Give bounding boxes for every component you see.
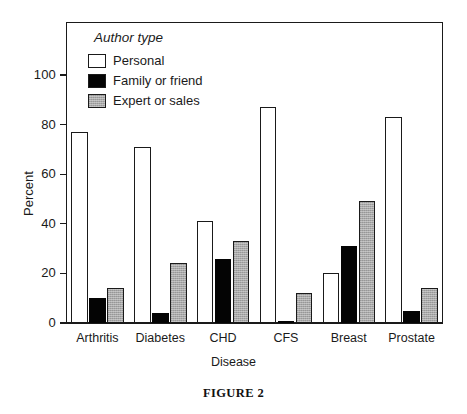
x-axis-label-arthritis: Arthritis	[66, 331, 129, 345]
bar-breast-personal	[323, 273, 340, 323]
bar-arthritis-family-or-friend	[89, 298, 106, 323]
figure-2-bar-chart: 020406080100 Percent ArthritisDiabetesCH…	[0, 0, 467, 414]
x-axis-label-prostate: Prostate	[380, 331, 443, 345]
legend: Author type PersonalFamily or friendExpe…	[88, 30, 258, 111]
x-axis-title: Disease	[0, 355, 467, 369]
bar-prostate-family-or-friend	[403, 311, 420, 323]
legend-item: Family or friend	[88, 71, 258, 90]
bar-prostate-expert-or-sales	[421, 288, 438, 323]
legend-item-label: Family or friend	[113, 74, 203, 88]
bar-cfs-personal	[260, 107, 277, 323]
bar-chd-personal	[197, 221, 214, 323]
x-axis-label-breast: Breast	[317, 331, 380, 345]
bar-diabetes-personal	[134, 147, 151, 323]
bar-diabetes-expert-or-sales	[170, 263, 187, 323]
bar-chd-family-or-friend	[215, 259, 232, 323]
bar-prostate-personal	[385, 117, 402, 323]
bar-breast-family-or-friend	[341, 246, 358, 323]
bar-cfs-expert-or-sales	[296, 293, 313, 323]
legend-item: Personal	[88, 51, 258, 70]
bar-breast-expert-or-sales	[359, 201, 376, 323]
legend-entries: PersonalFamily or friendExpert or sales	[88, 51, 258, 110]
bar-arthritis-personal	[71, 132, 88, 323]
x-axis-label-cfs: CFS	[255, 331, 318, 345]
bar-cfs-family-or-friend	[278, 321, 295, 323]
x-axis-label-chd: CHD	[192, 331, 255, 345]
legend-swatch-open-square-icon	[88, 54, 106, 68]
bar-arthritis-expert-or-sales	[107, 288, 124, 323]
legend-title: Author type	[88, 30, 258, 45]
legend-swatch-filled-black-square-icon	[88, 74, 106, 88]
bar-chd-expert-or-sales	[233, 241, 250, 323]
x-axis-label-diabetes: Diabetes	[129, 331, 192, 345]
legend-item: Expert or sales	[88, 91, 258, 110]
legend-item-label: Personal	[113, 54, 164, 68]
legend-swatch-gray-hatched-square-icon	[88, 94, 106, 108]
legend-item-label: Expert or sales	[113, 94, 200, 108]
figure-caption: FIGURE 2	[0, 386, 467, 401]
bar-diabetes-family-or-friend	[152, 313, 169, 323]
